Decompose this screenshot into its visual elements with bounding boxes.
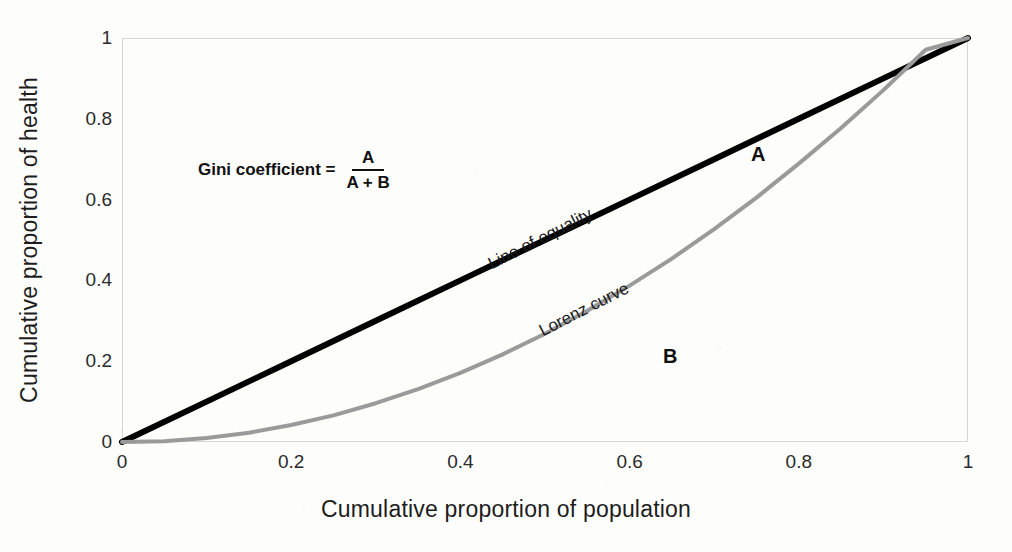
x-axis-tick-labels: 00.20.40.60.81 (122, 452, 968, 478)
y-tick-label: 0.6 (66, 190, 112, 209)
y-tick-label: 0 (66, 432, 112, 451)
x-tick-label: 0.8 (786, 452, 812, 471)
x-tick-label: 1 (963, 452, 974, 471)
y-tick-label: 0.2 (66, 351, 112, 370)
x-tick-label: 0.6 (616, 452, 642, 471)
y-tick-label: 0.8 (66, 109, 112, 128)
x-tick-label: 0.4 (447, 452, 473, 471)
y-tick-label: 1 (66, 28, 112, 47)
region-b-label: B (663, 345, 677, 368)
x-tick-label: 0.2 (278, 452, 304, 471)
y-tick-label: 0.4 (66, 270, 112, 289)
lorenz-curve-figure: Line of equalityLorenz curveAB Gini coef… (0, 0, 1012, 552)
region-a-label: A (751, 143, 765, 166)
gini-formula-numerator: A (352, 148, 384, 171)
gini-formula-denominator: A + B (340, 171, 395, 193)
x-axis-title: Cumulative proportion of population (0, 496, 1012, 523)
gini-coefficient-formula: Gini coefficient = A A + B (198, 148, 396, 192)
gini-formula-fraction: A A + B (340, 148, 395, 192)
y-axis-tick-labels: 00.20.40.60.81 (56, 38, 112, 442)
x-tick-label: 0 (117, 452, 128, 471)
y-axis-title-container: Cumulative proportion of health (12, 38, 46, 442)
gini-formula-label: Gini coefficient = (198, 160, 335, 180)
y-axis-title: Cumulative proportion of health (16, 77, 43, 403)
